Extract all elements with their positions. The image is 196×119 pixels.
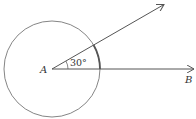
highlighted-arc bbox=[94, 45, 100, 69]
angle-label: 30° bbox=[70, 57, 87, 68]
angle-arc bbox=[66, 61, 68, 69]
geometry-diagram: A B 30° bbox=[0, 0, 196, 119]
point-a-label: A bbox=[39, 64, 47, 75]
ray-upper bbox=[52, 5, 164, 70]
point-b-label: B bbox=[184, 74, 192, 85]
